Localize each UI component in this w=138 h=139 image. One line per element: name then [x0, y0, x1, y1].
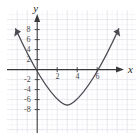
y-tick-label-neg6: -6: [24, 95, 31, 104]
y-tick-label-8: 8: [27, 25, 31, 34]
y-axis-label: y: [32, 2, 38, 14]
y-tick-label-neg2: -2: [24, 75, 31, 84]
y-tick-label-6: 6: [27, 35, 31, 44]
coordinate-plane-plot: 2 4 6 8 6 4 2 -2 -4 -6 -8 x y: [0, 0, 138, 139]
x-tick-label-2: 2: [55, 72, 59, 81]
x-tick-label-4: 4: [75, 72, 79, 81]
graph-figure: 2 4 6 8 6 4 2 -2 -4 -6 -8 x y: [0, 0, 138, 139]
x-axis-label: x: [127, 63, 133, 75]
y-axis: [34, 14, 40, 133]
y-tick-label-neg8: -8: [24, 105, 31, 114]
x-axis: [7, 67, 124, 73]
y-tick-label-neg4: -4: [24, 85, 31, 94]
